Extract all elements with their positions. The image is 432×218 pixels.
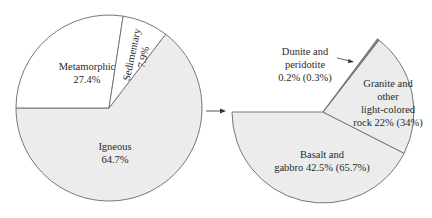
- basalt-label-line: Basalt and: [262, 148, 382, 161]
- metamorphic-value: 27.4%: [42, 73, 132, 86]
- dunite-label: Dunite and peridotite 0.2% (0.3%): [270, 45, 340, 84]
- igneous-label: Igneous 64.7%: [70, 140, 160, 166]
- igneous-name: Igneous: [70, 140, 160, 153]
- granite-label: Granite and other light-colored rock 22%…: [348, 77, 428, 129]
- dunite-label-line: Dunite and: [270, 45, 340, 58]
- granite-label-line: light-colored: [348, 103, 428, 116]
- igneous-value: 64.7%: [70, 153, 160, 166]
- basalt-label-value: gabbro 42.5% (65.7%): [262, 161, 382, 174]
- metamorphic-name: Metamorphic: [42, 60, 132, 73]
- rock-composition-figure: Metamorphic 27.4% Sedimentary 7.9% Igneo…: [0, 0, 432, 218]
- dunite-label-value: 0.2% (0.3%): [270, 71, 340, 84]
- granite-label-value: rock 22% (34%): [348, 116, 428, 129]
- basalt-label: Basalt and gabbro 42.5% (65.7%): [262, 148, 382, 174]
- granite-label-line: other: [348, 90, 428, 103]
- dunite-label-line: peridotite: [270, 58, 340, 71]
- granite-label-line: Granite and: [348, 77, 428, 90]
- metamorphic-label: Metamorphic 27.4%: [42, 60, 132, 86]
- arrow-icon: [206, 109, 226, 114]
